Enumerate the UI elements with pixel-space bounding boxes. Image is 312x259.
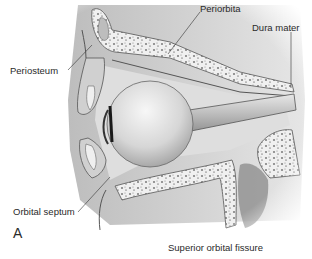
panel-letter: A — [13, 226, 22, 240]
label-periosteum: Periosteum — [10, 66, 58, 76]
orbit-cross-section-illustration — [0, 0, 312, 259]
label-orbital-septum: Orbital septum — [13, 207, 75, 217]
label-dura-mater: Dura mater — [252, 23, 300, 33]
label-superior-orbital-fissure: Superior orbital fissure — [168, 243, 263, 253]
label-periorbita: Periorbita — [200, 4, 241, 14]
